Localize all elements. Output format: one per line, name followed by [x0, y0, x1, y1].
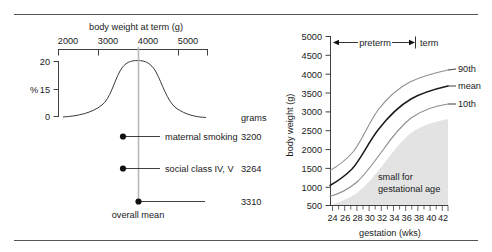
- right-y-axis-label: body weight (g): [285, 94, 295, 157]
- right-xtick-label-7: 38: [414, 213, 424, 223]
- annotation-label-maternal-smoking: maternal smoking: [165, 132, 238, 142]
- right-xtick-label-1: 26: [340, 213, 350, 223]
- left-ytick-label-15: 15: [40, 85, 50, 95]
- grams-column-header: grams: [241, 113, 267, 123]
- annotation-row-overall-mean: overall mean 3310: [112, 197, 262, 220]
- right-xtick-label-2: 28: [352, 213, 362, 223]
- left-distribution-curve: [63, 61, 206, 118]
- sga-label-line1: small for: [378, 172, 413, 182]
- right-ytick-label-6: 2000: [302, 145, 322, 155]
- right-xtick-label-0: 24: [327, 213, 337, 223]
- right-x-axis: 24 26 28 30 32 34 36 38 40 42 gestation …: [327, 206, 448, 239]
- annotation-row-maternal-smoking: maternal smoking 3200: [120, 132, 262, 142]
- left-ytick-label-0: 0: [45, 112, 50, 122]
- annotation-row-social-class: social class IV, V 3264: [120, 164, 262, 174]
- right-ytick-label-0: 5000: [302, 32, 322, 42]
- left-xtick-label-0: 2000: [58, 36, 78, 46]
- right-ytick-label-8: 1000: [302, 183, 322, 193]
- term-label: term: [420, 38, 439, 48]
- right-chart: 5000 4500 4000 3500 3000 2500 2000 1500 …: [285, 32, 481, 238]
- right-y-axis: 5000 4500 4000 3500 3000 2500 2000 1500 …: [285, 32, 331, 211]
- annotation-value-maternal-smoking: 3200: [241, 132, 261, 142]
- annotation-dot-overall-mean: [135, 198, 141, 204]
- left-top-axis: [58, 50, 208, 56]
- annotation-value-overall-mean: 3310: [241, 197, 261, 207]
- right-ytick-label-5: 2500: [302, 126, 322, 136]
- curve-label-90th: 90th: [458, 64, 476, 74]
- figure-svg: body weight at term (g) 2000 3000 4000 5…: [0, 0, 492, 252]
- right-xtick-label-9: 42: [438, 213, 448, 223]
- right-xtick-label-8: 40: [426, 213, 436, 223]
- leader-90th: [448, 69, 456, 70]
- left-xtick-label-3: 5000: [178, 36, 198, 46]
- right-xtick-label-3: 30: [365, 213, 375, 223]
- annotation-dot-social-class: [120, 165, 126, 171]
- annotation-value-social-class: 3264: [241, 164, 261, 174]
- curve-label-mean: mean: [458, 81, 481, 91]
- preterm-label: preterm: [359, 38, 391, 48]
- right-ytick-label-9: 500: [307, 201, 322, 211]
- right-x-axis-label: gestation (wks): [359, 228, 421, 238]
- annotation-dot-maternal-smoking: [120, 133, 126, 139]
- right-xtick-label-5: 34: [389, 213, 399, 223]
- right-ytick-label-2: 4000: [302, 70, 322, 80]
- left-ytick-label-20: 20: [40, 57, 50, 67]
- left-chart: body weight at term (g) 2000 3000 4000 5…: [30, 22, 267, 220]
- left-xtick-label-2: 4000: [138, 36, 158, 46]
- sga-label-line2: gestational age: [378, 184, 440, 194]
- left-chart-title: body weight at term (g): [89, 22, 183, 32]
- annotation-label-overall-mean: overall mean: [112, 210, 165, 220]
- right-ytick-label-7: 1500: [302, 164, 322, 174]
- arrow-right-icon: [409, 40, 415, 45]
- left-y-axis: 20 15 0 %: [30, 57, 59, 122]
- preterm-term-annotation: preterm term: [333, 36, 439, 50]
- curve-label-10th: 10th: [458, 99, 476, 109]
- left-y-axis-label: %: [30, 85, 38, 95]
- figure-container: body weight at term (g) 2000 3000 4000 5…: [0, 0, 492, 252]
- right-xtick-label-4: 32: [377, 213, 387, 223]
- right-ytick-label-1: 4500: [302, 51, 322, 61]
- left-xtick-label-1: 3000: [98, 36, 118, 46]
- right-ytick-label-3: 3500: [302, 89, 322, 99]
- right-xtick-label-6: 36: [402, 213, 412, 223]
- right-ytick-label-4: 3000: [302, 107, 322, 117]
- arrow-left-icon: [333, 40, 339, 45]
- annotation-label-social-class: social class IV, V: [165, 164, 234, 174]
